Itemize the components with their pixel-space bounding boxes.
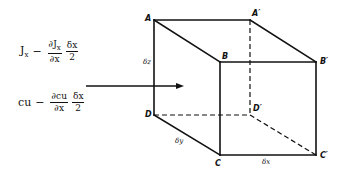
control-volume-diagram xyxy=(0,0,344,173)
vertex-label-A-prime: A′ xyxy=(252,9,260,18)
edge-Aprime-Bprime xyxy=(250,20,316,62)
vertex-label-D: D xyxy=(145,110,152,119)
vertex-label-B: B xyxy=(222,52,228,61)
fraction-denominator: ∂x xyxy=(50,54,60,64)
dimension-label-dy: δy xyxy=(175,137,183,145)
hidden-edge-Dprime-Cprime xyxy=(250,115,316,155)
fraction-denominator: ∂x xyxy=(54,103,64,113)
numerator-text: ∂J xyxy=(49,39,57,49)
dimension-label-dz: δz xyxy=(143,58,151,66)
flux-term: Jx xyxy=(20,44,28,59)
advection-derivative-fraction: ∂cu ∂x xyxy=(50,92,68,113)
advection-term: cu xyxy=(18,96,31,109)
vertex-label-B-prime: B′ xyxy=(320,57,328,66)
dimension-label-dx: δx xyxy=(262,158,270,166)
fraction-denominator: 2 xyxy=(75,103,81,113)
fraction-numerator: δx xyxy=(72,92,85,103)
vertex-label-D-prime: D′ xyxy=(253,104,262,113)
edge-D-C xyxy=(154,115,220,155)
half-step-fraction: δx 2 xyxy=(66,41,79,62)
vertex-label-C-prime: C′ xyxy=(320,151,328,160)
fraction-numerator: ∂Jx xyxy=(48,40,62,54)
edge-A-B xyxy=(154,20,220,62)
advection-formula: cu − ∂cu ∂x δx 2 xyxy=(18,92,86,113)
minus-sign: − xyxy=(35,96,44,109)
numerator-subscript: x xyxy=(57,44,61,52)
vertex-label-C: C xyxy=(215,159,221,168)
flux-formula: Jx − ∂Jx ∂x δx 2 xyxy=(20,40,80,64)
fraction-denominator: 2 xyxy=(69,52,75,62)
vertex-label-A: A xyxy=(145,14,151,23)
half-step-fraction: δx 2 xyxy=(72,92,85,113)
minus-sign: − xyxy=(32,45,41,58)
fraction-numerator: δx xyxy=(66,41,79,52)
flux-derivative-fraction: ∂Jx ∂x xyxy=(48,40,62,64)
flux-arrow-icon xyxy=(86,83,184,89)
fraction-numerator: ∂cu xyxy=(50,92,68,103)
flux-subscript: x xyxy=(24,51,28,59)
